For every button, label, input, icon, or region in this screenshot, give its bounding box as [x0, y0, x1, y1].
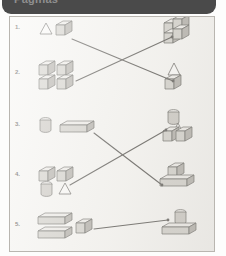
row-2-left-group [39, 61, 73, 89]
row-number-1: 1. [15, 24, 20, 30]
worksheet-sheet: 1. 2. 3. 4. 5. [9, 16, 215, 252]
row-1-left-group [40, 21, 72, 35]
worksheet-canvas [10, 17, 215, 252]
row-4-right-group [160, 163, 194, 186]
connector-row3-to-row5 [94, 133, 162, 185]
header-banner: Paginas [2, 0, 216, 14]
row-3-right-group [163, 110, 192, 141]
row-4-left-group [39, 167, 73, 196]
row-3-left-group [40, 118, 94, 133]
row-number-2: 2. [15, 69, 20, 75]
row-number-5: 5. [15, 221, 20, 227]
connector-row5-to-row4-endpoint [167, 219, 170, 222]
row-5-left-group [38, 213, 92, 238]
row-5-right-group [162, 210, 196, 234]
connector-row1-to-row2-endpoint [172, 80, 175, 83]
row-2-right-group [165, 63, 181, 89]
row-number-4: 4. [15, 171, 20, 177]
worksheet-page: Paginas [0, 0, 226, 256]
connector-row4-to-row3-endpoint [165, 129, 168, 132]
row-number-3: 3. [15, 121, 20, 127]
connector-row2-to-row1-endpoint [171, 36, 174, 39]
header-title: Paginas [14, 0, 58, 5]
connector-row3-to-row5-endpoint [161, 184, 164, 187]
connector-row5-to-row4 [94, 220, 168, 229]
